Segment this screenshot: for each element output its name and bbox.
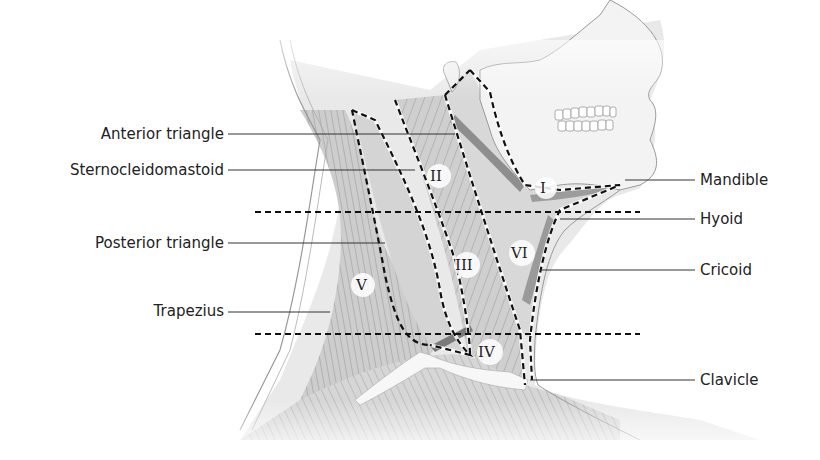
level-5-label: V <box>356 276 367 294</box>
neck-levels-diagram: I II III IV V VI Anterior triangle Stern… <box>0 0 820 460</box>
level-6-label: VI <box>511 244 528 262</box>
neck-anatomy-illustration <box>0 0 820 460</box>
label-trapezius: Trapezius <box>154 302 224 320</box>
label-mandible: Mandible <box>700 171 768 189</box>
label-sternocleidomastoid: Sternocleidomastoid <box>70 161 224 179</box>
label-posterior-triangle: Posterior triangle <box>95 234 224 252</box>
label-cricoid: Cricoid <box>700 261 752 279</box>
level-4-label: IV <box>478 343 495 361</box>
label-hyoid: Hyoid <box>700 210 743 228</box>
label-clavicle: Clavicle <box>700 371 759 389</box>
level-2-label: II <box>430 167 442 185</box>
label-anterior-triangle: Anterior triangle <box>101 125 224 143</box>
level-3-label: III <box>455 256 473 274</box>
level-1-label: I <box>540 179 546 197</box>
